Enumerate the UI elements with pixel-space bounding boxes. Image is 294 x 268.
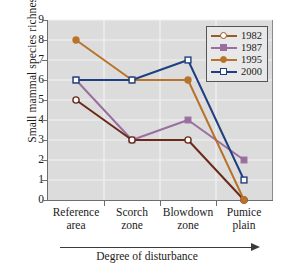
y-tick-mark-5 — [42, 100, 48, 101]
legend-marker-1987 — [220, 44, 227, 51]
legend-swatch-1982 — [211, 30, 237, 42]
x-tick-line1: Pumice — [227, 206, 262, 218]
x-tick-line1: Scorch — [116, 206, 148, 218]
legend-swatch-1995 — [211, 54, 237, 66]
y-tick-mark-7 — [42, 60, 48, 61]
data-point-2000-2 — [185, 57, 191, 63]
y-tick-mark-9 — [42, 20, 48, 21]
data-point-1987-3 — [241, 157, 247, 163]
legend-swatch-1987 — [211, 42, 237, 54]
x-tick-line2: plain — [208, 219, 280, 232]
data-point-2000-1 — [129, 77, 135, 83]
legend-marker-1995 — [220, 56, 227, 63]
y-tick-mark-0 — [42, 200, 48, 201]
legend-label-2000: 2000 — [237, 67, 262, 78]
x-axis-tick-labels: ReferenceareaScorchzoneBlowdownzonePumic… — [48, 206, 272, 240]
data-point-1995-3 — [241, 197, 247, 203]
legend-item-1995[interactable]: 1995 — [211, 54, 262, 66]
data-point-1987-2 — [185, 117, 191, 123]
legend-item-1982[interactable]: 1982 — [211, 30, 262, 42]
legend-item-1987[interactable]: 1987 — [211, 42, 262, 54]
x-axis-title: Degree of disturbance — [0, 250, 294, 262]
legend-marker-1982 — [220, 32, 227, 39]
legend-label-1987: 1987 — [237, 43, 262, 54]
data-point-1982-1 — [129, 137, 135, 143]
y-axis-tick-labels: 0123456789 — [30, 20, 44, 200]
legend-marker-2000 — [220, 68, 227, 75]
y-tick-mark-1 — [42, 180, 48, 181]
y-tick-mark-2 — [42, 160, 48, 161]
legend-label-1982: 1982 — [237, 31, 262, 42]
arrow-shaft — [60, 247, 252, 248]
data-point-2000-0 — [73, 77, 79, 83]
x-tick-mark-3 — [216, 200, 217, 206]
x-tick-3: Pumiceplain — [208, 206, 280, 232]
y-tick-mark-4 — [42, 120, 48, 121]
x-tick-line1: Reference — [53, 206, 100, 218]
legend-label-1995: 1995 — [237, 55, 262, 66]
data-point-2000-3 — [241, 177, 247, 183]
chart-legend: 1982198719952000 — [206, 26, 268, 82]
data-point-1982-2 — [185, 137, 191, 143]
y-tick-mark-8 — [42, 40, 48, 41]
data-point-1995-2 — [185, 77, 191, 83]
legend-swatch-2000 — [211, 66, 237, 78]
data-point-1995-0 — [73, 37, 79, 43]
y-tick-mark-3 — [42, 140, 48, 141]
chart-figure: Small mammal species richness 0123456789… — [0, 0, 294, 268]
x-tick-mark-1 — [104, 200, 105, 206]
x-tick-mark-2 — [160, 200, 161, 206]
y-tick-mark-6 — [42, 80, 48, 81]
legend-item-2000[interactable]: 2000 — [211, 66, 262, 78]
x-tick-line1: Blowdown — [163, 206, 213, 218]
data-point-1982-0 — [73, 97, 79, 103]
